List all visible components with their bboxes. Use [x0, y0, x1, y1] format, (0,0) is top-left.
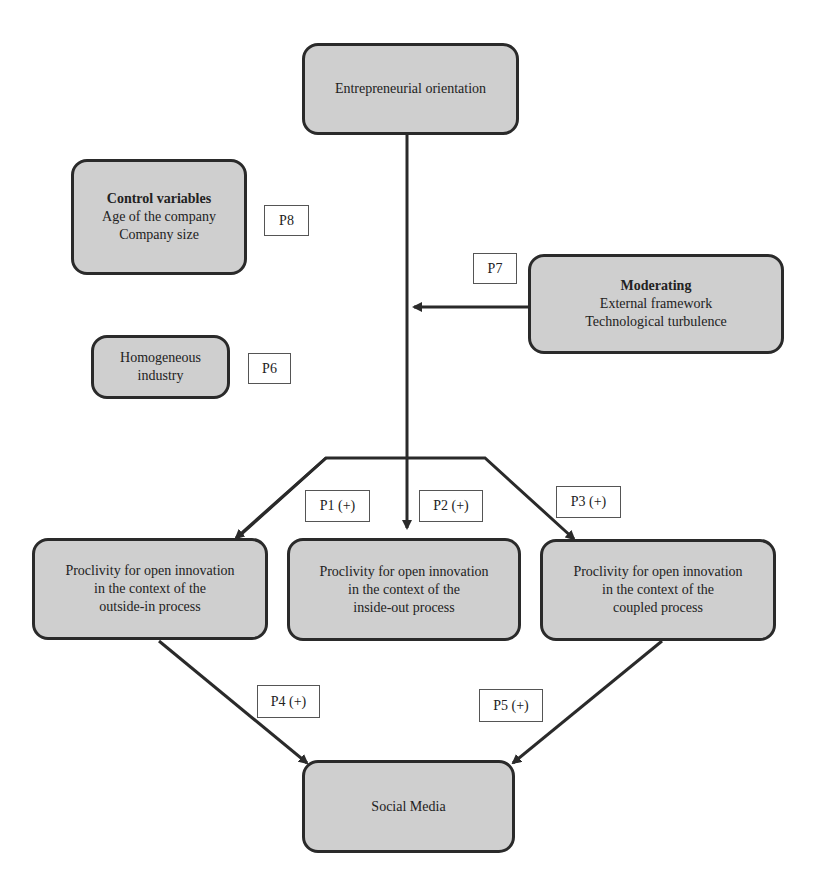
label-text: P8 — [279, 213, 294, 229]
node-text: Proclivity for open innovation — [65, 562, 234, 580]
node-outside-in: Proclivity for open innovation in the co… — [32, 538, 268, 640]
node-text: in the context of the — [348, 581, 460, 599]
label-text: P1 (+) — [320, 498, 356, 514]
node-text: Entrepreneurial orientation — [335, 80, 486, 98]
node-title: Moderating — [621, 277, 692, 295]
label-p5: P5 (+) — [479, 689, 543, 722]
node-homogeneous-industry: Homogeneous industry — [91, 335, 230, 399]
label-text: P7 — [488, 261, 503, 277]
node-text: Age of the company — [102, 208, 216, 226]
node-text: Social Media — [371, 798, 445, 816]
node-text: outside-in process — [99, 598, 200, 616]
node-text: External framework — [600, 295, 712, 313]
label-p8: P8 — [264, 205, 309, 236]
node-text: Proclivity for open innovation — [573, 563, 742, 581]
node-entrepreneurial-orientation: Entrepreneurial orientation — [302, 43, 519, 135]
node-text: in the context of the — [602, 581, 714, 599]
node-moderating: Moderating External framework Technologi… — [528, 254, 784, 354]
node-control-variables: Control variables Age of the company Com… — [71, 159, 247, 275]
node-text: coupled process — [613, 599, 703, 617]
label-p1: P1 (+) — [305, 490, 370, 522]
label-text: P2 (+) — [433, 498, 469, 514]
node-text: Company size — [119, 226, 199, 244]
label-text: P6 — [262, 361, 277, 377]
node-inside-out: Proclivity for open innovation in the co… — [287, 538, 521, 641]
label-p2: P2 (+) — [419, 490, 483, 522]
node-coupled: Proclivity for open innovation in the co… — [540, 539, 776, 641]
node-social-media: Social Media — [302, 760, 515, 853]
label-text: P5 (+) — [493, 698, 529, 714]
node-text: industry — [138, 367, 184, 385]
label-p6: P6 — [248, 353, 291, 384]
label-p7: P7 — [473, 253, 517, 284]
node-title: Control variables — [107, 190, 211, 208]
node-text: Homogeneous — [120, 349, 201, 367]
label-text: P4 (+) — [271, 694, 307, 710]
node-text: in the context of the — [94, 580, 206, 598]
node-text: Proclivity for open innovation — [319, 563, 488, 581]
label-text: P3 (+) — [571, 494, 607, 510]
node-text: Technological turbulence — [585, 313, 727, 331]
label-p3: P3 (+) — [556, 486, 621, 518]
label-p4: P4 (+) — [257, 685, 320, 718]
node-text: inside-out process — [353, 599, 454, 617]
